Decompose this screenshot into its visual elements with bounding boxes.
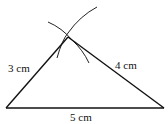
triangle-diagram: 3 cm 4 cm 5 cm bbox=[0, 0, 168, 124]
label-base: 5 cm bbox=[70, 111, 92, 123]
construction-arc-from-left bbox=[57, 7, 97, 58]
side-right bbox=[68, 37, 164, 108]
label-right-side: 4 cm bbox=[115, 59, 137, 71]
construction-arc-from-right bbox=[48, 22, 89, 63]
label-left-side: 3 cm bbox=[8, 62, 30, 74]
